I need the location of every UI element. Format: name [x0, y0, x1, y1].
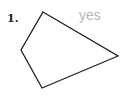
- quadrilateral-figure: [0, 0, 132, 109]
- quadrilateral-shape: [21, 12, 118, 88]
